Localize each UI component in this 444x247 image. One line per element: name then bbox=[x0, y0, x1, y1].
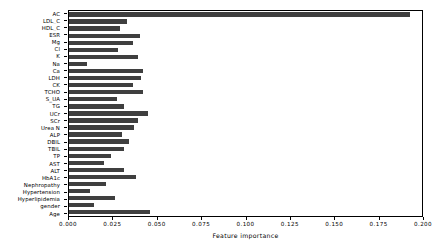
y-axis-tick-label: Na bbox=[0, 60, 64, 67]
bar bbox=[69, 125, 134, 129]
y-axis-tick-label: Mg bbox=[0, 39, 64, 46]
y-axis-tick-label: TBIL bbox=[0, 146, 64, 153]
bar bbox=[69, 76, 141, 80]
y-axis-tick-label: Nephropathy bbox=[0, 181, 64, 188]
bar-row bbox=[69, 68, 422, 75]
x-axis-tick-label: 0.025 bbox=[103, 221, 121, 227]
bar bbox=[69, 147, 124, 151]
bar-row bbox=[69, 96, 422, 103]
bar bbox=[69, 182, 106, 186]
x-axis-tick-label: 0.150 bbox=[325, 221, 343, 227]
bar-row bbox=[69, 195, 422, 202]
x-axis-tick-label: 0.175 bbox=[370, 221, 388, 227]
x-axis-tick bbox=[423, 217, 424, 220]
bar bbox=[69, 139, 129, 143]
bar bbox=[69, 55, 138, 59]
bar-row bbox=[69, 145, 422, 152]
y-axis-tick-label: LDH bbox=[0, 74, 64, 81]
bar bbox=[69, 189, 90, 193]
x-axis-tick bbox=[246, 217, 247, 220]
bar-row bbox=[69, 32, 422, 39]
bar-row bbox=[69, 110, 422, 117]
x-axis-tick-label: 0.100 bbox=[236, 221, 254, 227]
x-axis-tick-label: 0.125 bbox=[281, 221, 299, 227]
bar bbox=[69, 104, 124, 108]
bar bbox=[69, 210, 150, 214]
bar bbox=[69, 12, 410, 16]
bar bbox=[69, 154, 111, 158]
bar-row bbox=[69, 209, 422, 216]
y-axis-tick-label: Urea N bbox=[0, 124, 64, 131]
bar-row bbox=[69, 82, 422, 89]
x-axis-tick bbox=[334, 217, 335, 220]
x-axis-tick bbox=[157, 217, 158, 220]
bar bbox=[69, 175, 136, 179]
bar bbox=[69, 19, 127, 23]
bar-row bbox=[69, 173, 422, 180]
bar-row bbox=[69, 166, 422, 173]
bar-row bbox=[69, 60, 422, 67]
x-axis-tick bbox=[201, 217, 202, 220]
bar-row bbox=[69, 138, 422, 145]
y-axis-tick-label: ESR bbox=[0, 31, 64, 38]
y-axis-tick-label: ALP bbox=[0, 131, 64, 138]
bar-row bbox=[69, 188, 422, 195]
y-axis-tick-label: Age bbox=[0, 210, 64, 217]
x-axis-tick bbox=[290, 217, 291, 220]
y-axis-tick-label: Ca bbox=[0, 67, 64, 74]
bar-row bbox=[69, 11, 422, 18]
bar-row bbox=[69, 18, 422, 25]
x-axis-tick-label: 0.050 bbox=[148, 221, 166, 227]
x-axis-tick-label: 0.000 bbox=[59, 221, 77, 227]
x-axis-tick-label: 0.200 bbox=[414, 221, 432, 227]
bar bbox=[69, 48, 118, 52]
plot-area bbox=[68, 10, 423, 217]
bar-row bbox=[69, 124, 422, 131]
y-axis-tick-label: S_UA bbox=[0, 96, 64, 103]
y-axis-tick-label: TCHO bbox=[0, 89, 64, 96]
y-axis-labels: ACLDL_CHDL_CESRMgClKNaCaLDHCKTCHOS_UATGU… bbox=[0, 10, 64, 217]
y-axis-tick-label: LDL_C bbox=[0, 17, 64, 24]
x-axis-tick bbox=[379, 217, 380, 220]
bar bbox=[69, 41, 133, 45]
y-axis-tick-label: gender bbox=[0, 203, 64, 210]
bar bbox=[69, 62, 87, 66]
bar-series bbox=[69, 11, 422, 216]
y-axis-tick-label: TP bbox=[0, 153, 64, 160]
bar-row bbox=[69, 202, 422, 209]
bar bbox=[69, 90, 143, 94]
bar bbox=[69, 196, 115, 200]
x-axis-title: Feature importance bbox=[68, 232, 423, 239]
x-axis-tick-labels: 0.0000.0250.0500.0750.1000.1250.1500.175… bbox=[68, 221, 423, 231]
y-axis-tick-label: HbA1c bbox=[0, 174, 64, 181]
bar bbox=[69, 97, 117, 101]
bar bbox=[69, 26, 120, 30]
bar-row bbox=[69, 25, 422, 32]
bar-row bbox=[69, 53, 422, 60]
x-axis-tick bbox=[112, 217, 113, 220]
y-axis-tick-label: Hyperlipidemia bbox=[0, 196, 64, 203]
y-axis-tick-label: AC bbox=[0, 10, 64, 17]
x-axis-tick-label: 0.075 bbox=[192, 221, 210, 227]
bar-row bbox=[69, 103, 422, 110]
y-axis-tick-label: TG bbox=[0, 103, 64, 110]
y-axis-tick-label: Cl bbox=[0, 46, 64, 53]
bar bbox=[69, 69, 143, 73]
bar-row bbox=[69, 131, 422, 138]
y-axis-tick-label: DBIL bbox=[0, 139, 64, 146]
bar-row bbox=[69, 152, 422, 159]
bar-row bbox=[69, 89, 422, 96]
x-axis-tick bbox=[68, 217, 69, 220]
bar bbox=[69, 34, 140, 38]
y-axis-tick-label: SCr bbox=[0, 117, 64, 124]
bar bbox=[69, 161, 104, 165]
bar bbox=[69, 111, 148, 115]
bar bbox=[69, 132, 122, 136]
bar bbox=[69, 168, 124, 172]
feature-importance-chart: ACLDL_CHDL_CESRMgClKNaCaLDHCKTCHOS_UATGU… bbox=[0, 0, 444, 247]
bar-row bbox=[69, 46, 422, 53]
bar bbox=[69, 118, 138, 122]
bar-row bbox=[69, 75, 422, 82]
y-axis-tick-label: CK bbox=[0, 81, 64, 88]
bar bbox=[69, 83, 133, 87]
